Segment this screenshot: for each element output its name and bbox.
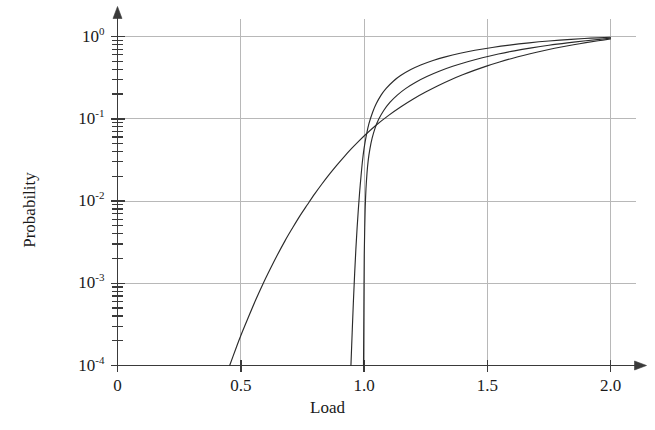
y-tick-label: 10-2 (40, 192, 105, 209)
x-tick-label: 0.5 (201, 377, 281, 394)
y-tick-label: 10-4 (40, 357, 105, 374)
x-tick-label: 1.5 (447, 377, 527, 394)
y-axis-title-wrapper: Probability (18, 130, 42, 290)
y-tick-label: 10-3 (40, 274, 105, 291)
y-axis-title: Probability (20, 172, 40, 248)
x-axis-title: Load (0, 398, 655, 418)
chart-figure: 10-410-310-210-1100 00.51.01.52.0 Load P… (0, 0, 655, 430)
y-tick-label: 100 (40, 28, 105, 45)
x-tick-label: 0 (78, 377, 158, 394)
y-tick-label: 10-1 (40, 110, 105, 127)
x-tick-label: 2.0 (571, 377, 651, 394)
x-tick-label: 1.0 (324, 377, 404, 394)
